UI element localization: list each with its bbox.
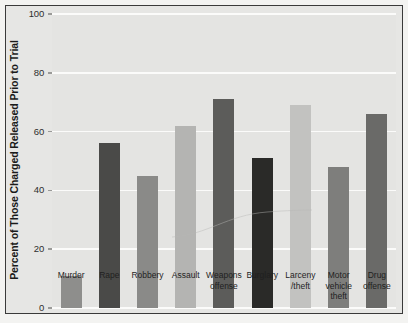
y-tick-label: 100: [20, 9, 44, 19]
bar-slot: [320, 14, 358, 308]
y-axis-title: Percent of Those Charged Released Prior …: [3, 6, 25, 313]
x-tick-label-line: Murder: [52, 270, 90, 281]
bar-slot: [167, 14, 205, 308]
y-tick-label: 0: [20, 303, 44, 313]
x-tick-label: Motorvehicletheft: [320, 270, 358, 302]
x-tick-label-line: Weapons: [205, 270, 243, 281]
bar-slot: [243, 14, 281, 308]
x-tick-label: Robbery: [128, 270, 166, 281]
y-tick-label: 60: [20, 127, 44, 137]
bar-slot: [128, 14, 166, 308]
x-tick-label-line: offense: [358, 281, 396, 292]
x-tick-label-line: Robbery: [128, 270, 166, 281]
x-tick-label-line: Rape: [90, 270, 128, 281]
x-axis-labels: MurderRapeRobberyAssaultWeaponsoffenseBu…: [52, 267, 396, 313]
y-axis-title-text: Percent of Those Charged Released Prior …: [8, 40, 20, 280]
plot-frame: Percent of Those Charged Released Prior …: [5, 5, 403, 314]
bar-slot: [358, 14, 396, 308]
x-tick-label-line: Motor: [320, 270, 358, 281]
bar-slot: [281, 14, 319, 308]
x-tick-label-line: Burglary: [243, 270, 281, 281]
x-tick-label: Assault: [167, 270, 205, 281]
plot-area: 020406080100: [52, 14, 396, 308]
x-tick-label-line: offense: [205, 281, 243, 292]
x-tick-label-line: vehicle: [320, 281, 358, 292]
x-tick-label: Larceny/theft: [281, 270, 319, 291]
bar-chart-figure: Percent of Those Charged Released Prior …: [0, 0, 408, 323]
bar-slot: [90, 14, 128, 308]
x-tick-label-line: /theft: [281, 281, 319, 292]
x-tick-label-line: Larceny: [281, 270, 319, 281]
x-tick-label-line: Drug: [358, 270, 396, 281]
x-tick-label-line: Assault: [167, 270, 205, 281]
y-tick-label: 80: [20, 68, 44, 78]
x-tick-label: Rape: [90, 270, 128, 281]
x-tick-label: Burglary: [243, 270, 281, 281]
x-tick-label: Murder: [52, 270, 90, 281]
bar-slot: [205, 14, 243, 308]
y-tick-label: 40: [20, 185, 44, 195]
x-tick-label: Drugoffense: [358, 270, 396, 291]
bars: [52, 14, 396, 308]
y-tick-label: 20: [20, 244, 44, 254]
x-tick-label: Weaponsoffense: [205, 270, 243, 291]
x-tick-label-line: theft: [320, 291, 358, 302]
bar-slot: [52, 14, 90, 308]
